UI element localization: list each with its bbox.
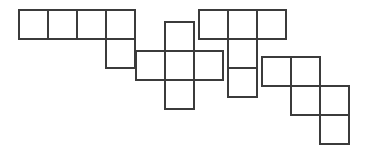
pentomino-square xyxy=(228,39,257,68)
shapes-layer xyxy=(19,10,349,144)
pentomino-square xyxy=(262,57,291,86)
pentomino-square xyxy=(199,10,228,39)
pentomino-square xyxy=(165,22,194,51)
pentomino-square xyxy=(291,86,320,115)
pentomino-square xyxy=(165,80,194,109)
pentomino-square xyxy=(136,51,165,80)
pentomino-square xyxy=(320,115,349,144)
pentomino-square xyxy=(106,39,135,68)
pentomino-figure xyxy=(0,0,366,150)
pentomino-square xyxy=(19,10,48,39)
pentomino-square xyxy=(194,51,223,80)
pentomino-square xyxy=(48,10,77,39)
pentomino-shape-W-pentomino-staircase xyxy=(262,57,349,144)
pentomino-square xyxy=(228,68,257,97)
pentomino-square xyxy=(106,10,135,39)
pentomino-svg-canvas xyxy=(0,0,366,150)
pentomino-square xyxy=(257,10,286,39)
pentomino-shape-L-pentomino xyxy=(19,10,135,68)
pentomino-square xyxy=(165,51,194,80)
pentomino-square xyxy=(291,57,320,86)
pentomino-square xyxy=(228,10,257,39)
pentomino-square xyxy=(320,86,349,115)
pentomino-square xyxy=(77,10,106,39)
